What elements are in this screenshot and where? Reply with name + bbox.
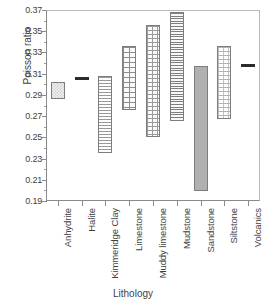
range-bar bbox=[170, 12, 184, 121]
y-tick-label: 0.19 bbox=[25, 197, 42, 206]
x-tick-label: Kimmeridge Clay bbox=[109, 208, 120, 279]
y-tick-label: 0.37 bbox=[25, 6, 42, 15]
y-tick-label: 0.31 bbox=[25, 69, 42, 78]
x-tick-label: Limestone bbox=[133, 208, 144, 251]
x-tick-label: Volcanics bbox=[252, 208, 263, 247]
x-tick-mark bbox=[58, 201, 59, 206]
y-axis: Poisson ratio 0.370.350.330.310.290.270.… bbox=[0, 0, 46, 303]
x-tick-label: Mudstone bbox=[181, 208, 192, 249]
range-bar bbox=[146, 25, 160, 137]
x-tick-mark bbox=[129, 201, 130, 206]
x-axis-title: Lithology bbox=[0, 288, 266, 299]
range-bar bbox=[217, 46, 231, 119]
range-bar bbox=[98, 76, 112, 153]
x-tick-mark bbox=[201, 201, 202, 206]
range-bar bbox=[75, 77, 89, 80]
x-tick-mark bbox=[82, 201, 83, 206]
y-tick-label: 0.27 bbox=[25, 112, 42, 121]
x-tick-label: Anhydrite bbox=[62, 208, 73, 247]
poisson-ratio-chart: Poisson ratio 0.370.350.330.310.290.270.… bbox=[0, 0, 266, 303]
x-tick-mark bbox=[105, 201, 106, 206]
x-tick-mark bbox=[248, 201, 249, 206]
y-tick-label: 0.35 bbox=[25, 27, 42, 36]
y-tick-label: 0.23 bbox=[25, 154, 42, 163]
range-bar bbox=[122, 46, 136, 110]
y-tick-label: 0.25 bbox=[25, 133, 42, 142]
x-tick-label: Muddy limestone bbox=[157, 208, 168, 278]
y-tick-label: 0.21 bbox=[25, 175, 42, 184]
x-tick-label: Siltstone bbox=[228, 208, 239, 244]
range-bar bbox=[51, 82, 65, 99]
range-bar bbox=[241, 64, 255, 67]
x-tick-mark bbox=[153, 201, 154, 206]
y-tick-label: 0.29 bbox=[25, 90, 42, 99]
y-tick-mark bbox=[42, 201, 47, 202]
y-tick-label: 0.33 bbox=[25, 48, 42, 57]
x-tick-mark bbox=[177, 201, 178, 206]
x-tick-mark bbox=[224, 201, 225, 206]
x-tick-label: Halite bbox=[86, 208, 97, 232]
range-bar bbox=[194, 66, 208, 191]
x-tick-label: Sandstone bbox=[205, 208, 216, 253]
